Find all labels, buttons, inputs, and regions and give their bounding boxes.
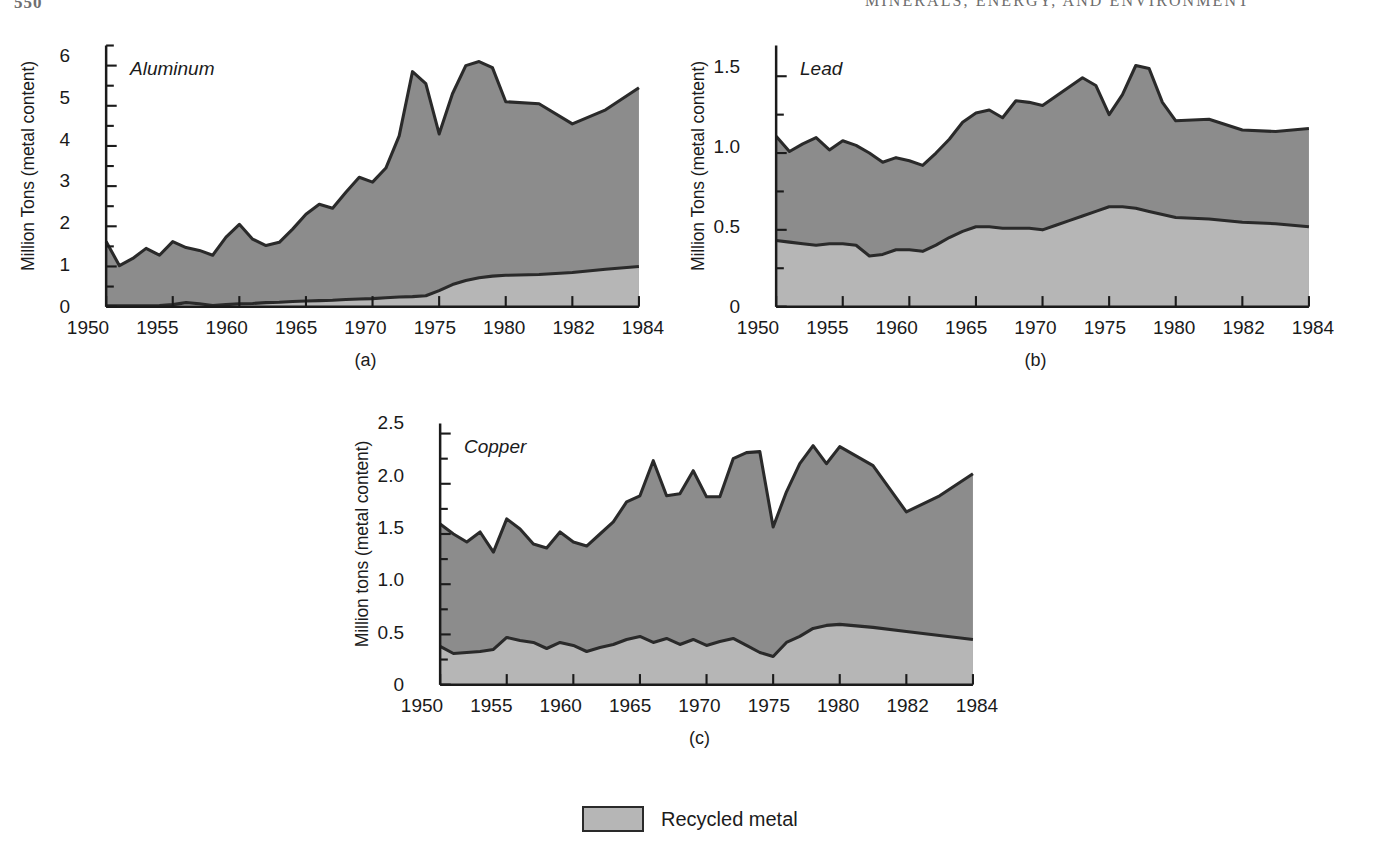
- y-tick-label: 6: [59, 45, 70, 64]
- legend-swatch-recycled-metal: [582, 806, 644, 832]
- y-axis-label-lead: Million Tons (metal content): [688, 28, 710, 304]
- x-tick-label: 1965: [945, 318, 987, 337]
- y-tick-label: 3: [59, 171, 70, 190]
- y-tick-label: 0: [59, 297, 70, 316]
- y-tick-label: 5: [59, 87, 70, 106]
- x-tick-label: 1975: [414, 318, 456, 337]
- x-tick-label: 1970: [1014, 318, 1056, 337]
- y-tick-label: 1.5: [378, 518, 404, 537]
- y-tick-label: 2.0: [378, 465, 404, 484]
- x-tick-label: 1965: [275, 318, 317, 337]
- y-tick-label: 1.0: [378, 570, 404, 589]
- x-tick-label: 1950: [401, 696, 443, 715]
- area-total-a: [106, 62, 639, 307]
- x-tick-label: 1950: [67, 318, 109, 337]
- y-tick-label: 0.5: [714, 217, 740, 236]
- x-tick-label: 1980: [817, 696, 859, 715]
- series-title-aluminum: Aluminum: [130, 58, 214, 80]
- y-tick-label: 1.5: [714, 57, 740, 76]
- figure-panel-copper: Million tons (metal content) 00.51.01.52…: [352, 404, 1002, 749]
- series-title-lead: Lead: [800, 58, 842, 80]
- y-tick-label: 2.5: [378, 413, 404, 432]
- figure-panel-aluminum: Million Tons (metal content) 0123456 195…: [18, 26, 668, 371]
- y-tick-label: 1: [59, 255, 70, 274]
- y-axis-label-aluminum: Million Tons (metal content): [18, 28, 40, 304]
- panel-caption-c: (c): [689, 728, 710, 749]
- x-tick-label: 1984: [1292, 318, 1334, 337]
- x-tick-label: 1960: [206, 318, 248, 337]
- x-tick-label: 1955: [806, 318, 848, 337]
- y-tick-label: 0.5: [378, 622, 404, 641]
- x-tick-label: 1984: [622, 318, 664, 337]
- x-tick-label: 1982: [886, 696, 928, 715]
- y-tick-label: 1.0: [714, 137, 740, 156]
- x-tick-label: 1970: [678, 696, 720, 715]
- x-tick-label: 1955: [136, 318, 178, 337]
- series-title-copper: Copper: [464, 436, 526, 458]
- legend-label-recycled-metal: Recycled metal: [661, 808, 798, 831]
- panel-caption-b: (b): [1025, 350, 1047, 371]
- y-tick-label: 0: [393, 675, 404, 694]
- x-tick-label: 1980: [483, 318, 525, 337]
- x-tick-label: 1984: [956, 696, 998, 715]
- x-tick-label: 1975: [1084, 318, 1126, 337]
- x-tick-label: 1970: [344, 318, 386, 337]
- x-tick-label: 1960: [540, 696, 582, 715]
- page-number: 550: [14, 0, 43, 13]
- x-tick-label: 1960: [876, 318, 918, 337]
- y-tick-label: 0: [729, 297, 740, 316]
- x-tick-label: 1965: [609, 696, 651, 715]
- chart-svg-b: [758, 34, 1329, 322]
- panel-caption-a: (a): [355, 350, 377, 371]
- x-tick-label: 1982: [552, 318, 594, 337]
- x-tick-label: 1950: [737, 318, 779, 337]
- legend: Recycled metal: [582, 806, 798, 832]
- x-tick-label: 1955: [470, 696, 512, 715]
- y-axis-label-copper: Million tons (metal content): [352, 406, 374, 682]
- x-tick-label: 1980: [1153, 318, 1195, 337]
- figure-panel-lead: Million Tons (metal content) 00.51.01.5 …: [688, 26, 1338, 371]
- y-tick-label: 4: [59, 129, 70, 148]
- x-tick-label: 1982: [1222, 318, 1264, 337]
- running-head: MINERALS, ENERGY, AND ENVIRONMENT: [865, 0, 1250, 10]
- x-tick-label: 1975: [748, 696, 790, 715]
- y-tick-label: 2: [59, 213, 70, 232]
